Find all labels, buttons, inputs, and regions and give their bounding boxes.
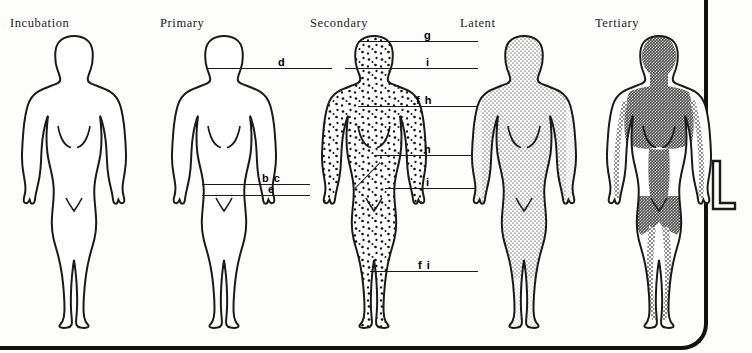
latent-shading-fill (464, 30, 584, 330)
callout-letter: g (424, 29, 432, 41)
stage-column-incubation: Incubation (0, 0, 150, 353)
callout-letter: f i (418, 259, 431, 271)
callout-letter: i (426, 56, 430, 68)
callout-letter: i (426, 176, 430, 188)
diagram-page: Incubation (0, 0, 752, 353)
callout-letter: e (268, 183, 275, 195)
stage-title-secondary: Secondary (310, 16, 368, 31)
callout-letter: f h (416, 94, 432, 106)
body-figure-secondary (314, 30, 434, 330)
tertiary-shading-fill (599, 30, 719, 330)
callout-letter: h (424, 143, 432, 155)
stage-title-tertiary: Tertiary (595, 16, 639, 31)
stage-title-primary: Primary (160, 16, 204, 31)
rash-fill (314, 30, 434, 330)
body-figure-tertiary (599, 30, 719, 330)
callout-leader-line (202, 195, 310, 196)
body-figure-incubation (14, 30, 134, 330)
callout-letter: d (278, 56, 286, 68)
stage-column-tertiary: Tertiary (585, 0, 735, 353)
body-figure-latent (464, 30, 584, 330)
stage-title-incubation: Incubation (10, 16, 69, 31)
stage-column-primary: Primary d b c e (150, 0, 300, 353)
stage-column-latent: Latent (450, 0, 600, 353)
stage-column-secondary: Secondary g i (300, 0, 450, 353)
callout-leader-line (202, 184, 310, 185)
stage-title-latent: Latent (460, 16, 496, 31)
